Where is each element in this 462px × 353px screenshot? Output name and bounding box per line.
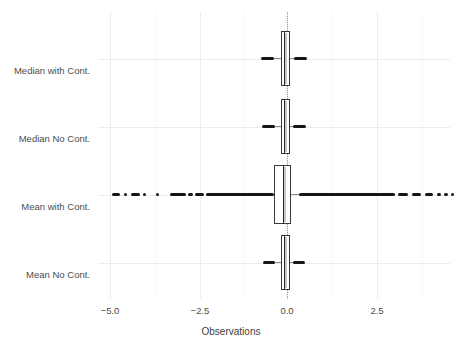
- y-axis: Median with Cont. Median No Cont. Mean w…: [0, 12, 90, 299]
- boxplot-chart: Median with Cont. Median No Cont. Mean w…: [0, 0, 462, 353]
- x-tick-label-2_5: 2.5: [370, 305, 383, 316]
- whisker-cap-low: [262, 125, 275, 128]
- outlier-point: [444, 193, 448, 196]
- plot-panel: [98, 12, 450, 299]
- outlier-point: [170, 193, 186, 196]
- whisker-cap-high: [293, 125, 306, 128]
- box-density-shade: [285, 33, 287, 84]
- median-line: [284, 31, 285, 86]
- outlier-point: [398, 193, 408, 196]
- y-tick-label-median-no-cont: Median No Cont.: [19, 133, 90, 144]
- outlier-point: [451, 193, 454, 196]
- boxplot-mean-no-cont: [98, 231, 450, 295]
- box-density-shade: [284, 167, 286, 222]
- whisker-cap-low: [263, 261, 275, 264]
- y-tick-label-mean-no-cont: Mean No Cont.: [26, 269, 90, 280]
- box-density-shade: [285, 101, 287, 152]
- outlier-point: [124, 193, 127, 196]
- y-tick-label-mean-with-cont: Mean with Cont.: [21, 201, 90, 212]
- x-tick-label-0: 0.0: [280, 305, 293, 316]
- whisker-cap-high: [293, 261, 305, 264]
- outlier-cluster-right: [299, 193, 395, 196]
- whisker-cap-low: [261, 57, 274, 60]
- boxplot-mean-with-cont: [98, 163, 450, 227]
- outlier-point: [156, 193, 159, 196]
- outlier-point: [143, 193, 146, 196]
- outlier-point: [112, 193, 120, 196]
- outlier-point: [412, 193, 421, 196]
- median-line: [283, 165, 284, 224]
- outlier-cluster-left: [206, 193, 274, 196]
- outlier-point: [195, 193, 204, 196]
- box-density-shade: [285, 237, 287, 288]
- median-line: [284, 99, 285, 154]
- x-axis-title: Observations: [0, 326, 462, 337]
- median-line: [284, 235, 285, 290]
- outlier-point: [437, 193, 441, 196]
- outlier-point: [131, 193, 140, 196]
- boxplot-median-no-cont: [98, 95, 450, 159]
- x-tick-label-minus5: −5.0: [101, 305, 120, 316]
- boxplot-median-with-cont: [98, 27, 450, 91]
- outlier-point: [188, 193, 193, 196]
- x-tick-label-minus2_5: −2.5: [191, 305, 210, 316]
- outlier-point: [425, 193, 433, 196]
- whisker-cap-high: [294, 57, 307, 60]
- y-tick-label-median-with-cont: Median with Cont.: [14, 65, 90, 76]
